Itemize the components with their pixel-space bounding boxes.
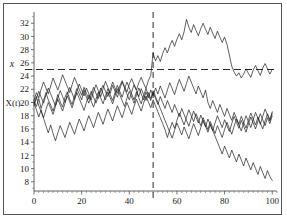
y-tick-label: 18 (20, 111, 30, 121)
x-tick-label: 100 (265, 196, 279, 206)
y-tick-label: 26 (20, 58, 30, 68)
y-tick-label: 22 (20, 84, 29, 94)
y-tick-label: 30 (20, 32, 30, 42)
axes-group (31, 12, 277, 195)
axis-name-group: X(t)x (6, 58, 21, 108)
line-chart-plot: 8101214161820222426283032020406080100 X(… (0, 0, 287, 220)
x-tick-label: 20 (77, 196, 87, 206)
tick-label-group: 8101214161820222426283032020406080100 (20, 18, 279, 206)
chart-figure: 8101214161820222426283032020406080100 X(… (0, 0, 287, 220)
x-tick-label: 40 (125, 196, 135, 206)
y-tick-label: 14 (20, 137, 30, 147)
x-tick-label: 80 (220, 196, 230, 206)
x-tick-label: 60 (172, 196, 182, 206)
y-tick-label: 32 (20, 18, 29, 28)
y-tick-label: 8 (25, 177, 30, 187)
y-axis-label: X(t) (6, 98, 21, 108)
y-tick-label: 12 (20, 151, 29, 161)
y-tick-label: 24 (20, 71, 30, 81)
y-tick-label: 16 (20, 124, 30, 134)
y-tick-label: 10 (20, 164, 30, 174)
x-tick-label: 0 (32, 196, 37, 206)
y-tick-label: 20 (20, 98, 30, 108)
threshold-label: x (9, 58, 15, 69)
y-tick-label: 28 (20, 45, 30, 55)
